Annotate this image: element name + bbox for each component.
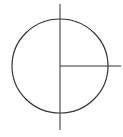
circle-diagram <box>0 0 123 137</box>
